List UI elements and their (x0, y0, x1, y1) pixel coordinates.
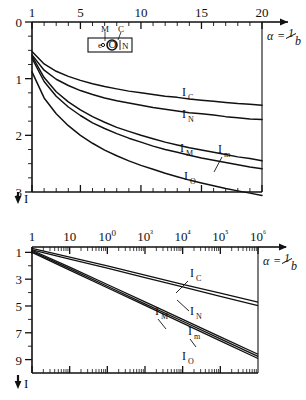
lower-xtick-label: 10³ (137, 228, 153, 244)
lower-curve-I_M (32, 250, 258, 354)
lower-leader-I_M (158, 319, 166, 329)
lower-label-I_N: I (190, 304, 194, 318)
upper-curve-I_M (32, 56, 262, 161)
lower-curve-I_m (32, 251, 258, 356)
upper-sublabel-I_m: m (224, 150, 231, 159)
lower-equals-symbol: = (273, 254, 281, 268)
lower-sublabel-I_N: N (196, 312, 202, 321)
upper-curves (32, 51, 262, 195)
schematic-label-n: N (122, 41, 129, 51)
upper-label-I_M: I (180, 141, 184, 155)
upper-y-axis-label: I (24, 191, 28, 205)
lower-panel: 11010010³10⁴10⁵10⁶13579 I α = 1 b ICINIM… (0, 205, 306, 400)
lower-x-axis-label: α = 1 b (263, 251, 297, 273)
upper-xtick-label: 5 (77, 5, 84, 20)
upper-alpha-symbol: α (267, 29, 274, 43)
upper-curve-I_C (32, 51, 262, 105)
upper-label-I_N: I (182, 107, 186, 121)
upper-leader-I_m (214, 157, 222, 172)
upper-xtick-label: 1 (29, 5, 36, 20)
upper-numerator-one: 1 (288, 26, 294, 40)
upper-equals-symbol: = (277, 29, 285, 43)
lower-y-arrow-head (15, 381, 22, 389)
lower-curve-I_O (32, 252, 258, 358)
lower-curves (32, 248, 258, 358)
lower-label-I_m: I (188, 324, 192, 338)
lower-ytick-label: 7 (16, 326, 23, 341)
lower-xtick-label: 10⁶ (250, 228, 266, 244)
lower-ytick-label: 5 (16, 299, 23, 314)
lower-ytick-label: 9 (16, 353, 23, 368)
upper-label-I_O: I (184, 169, 188, 183)
lower-label-I_O: I (182, 349, 186, 363)
lower-sublabel-I_O: O (188, 357, 194, 366)
upper-panel: 151015200123 I α = 1 b e O N (0, 0, 306, 205)
lower-leader-I_N (177, 300, 189, 311)
upper-label-I_m: I (218, 142, 222, 156)
upper-panel-svg: 151015200123 I α = 1 b e O N (0, 0, 306, 205)
upper-sublabel-I_N: N (188, 115, 194, 124)
upper-curve-I_O (32, 72, 262, 196)
upper-xtick-label: 15 (195, 5, 208, 20)
lower-label-I_C: I (190, 266, 194, 280)
upper-ytick-label: 1 (16, 72, 23, 87)
lower-sublabel-I_C: C (196, 274, 201, 283)
upper-curve-I_N (32, 55, 262, 120)
lower-xtick-label: 10⁴ (175, 228, 191, 244)
upper-y-arrow-head (15, 196, 22, 204)
lower-xtick-label: 100 (99, 228, 117, 244)
upper-label-I_C: I (182, 85, 186, 99)
lower-alpha-symbol: α (263, 254, 270, 268)
lower-sublabel-I_M: M (161, 312, 168, 321)
schematic-label-c: C (118, 24, 124, 34)
schematic-inset: e O N M C (88, 24, 132, 52)
upper-sublabel-I_M: M (186, 149, 193, 158)
lower-xtick-label: 1 (29, 229, 36, 244)
lower-y-axis-label: I (24, 376, 28, 391)
lower-xtick-label: 10 (63, 229, 76, 244)
lower-panel-svg: 11010010³10⁴10⁵10⁶13579 I α = 1 b ICINIM… (0, 205, 306, 400)
lower-sublabel-I_m: m (194, 332, 201, 341)
lower-ytick-label: 3 (16, 272, 23, 287)
upper-denominator-b: b (295, 34, 301, 48)
lower-numerator-one: 1 (284, 251, 290, 265)
lower-xtick-label: 10⁵ (212, 228, 228, 244)
upper-x-arrow-head (280, 19, 288, 26)
lower-curve-I_N (32, 250, 258, 306)
upper-sublabel-I_O: O (190, 177, 196, 186)
lower-ytick-label: 1 (16, 245, 23, 260)
schematic-label-o: O (109, 38, 117, 50)
schematic-label-e: e (98, 40, 102, 50)
lower-denominator-b: b (291, 259, 297, 273)
lower-curve-labels: ICINIMImIO (155, 266, 202, 366)
upper-xtick-label: 20 (256, 5, 269, 20)
upper-sublabel-I_C: C (188, 93, 193, 102)
lower-label-I_M: I (155, 304, 159, 318)
upper-x-axis-label: α = 1 b (267, 26, 301, 48)
upper-xtick-label: 10 (134, 5, 147, 20)
lower-curve-I_C (32, 248, 258, 302)
upper-ytick-label: 0 (16, 15, 23, 30)
schematic-label-m: M (101, 24, 109, 34)
lower-x-arrow-head (279, 244, 287, 251)
upper-ytick-label: 2 (16, 128, 23, 143)
